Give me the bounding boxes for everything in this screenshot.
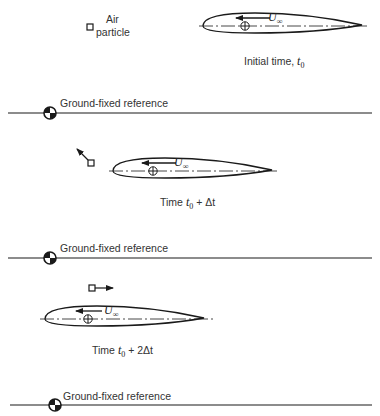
particle-label-line1: Air [106,13,119,25]
svg-text:U∞: U∞ [174,155,189,171]
caption-dt: Time t0 + Δt [160,195,215,211]
airfoil-3: U∞ [40,303,216,326]
airfoil-2: U∞ [109,155,278,178]
airfoil-motion-diagram: Air particle U∞ Initial time, t0 Ground-… [0,0,380,416]
center-crosshair-icon [241,22,249,30]
particle-velocity-arrow [77,149,88,160]
reference-label-3: Ground-fixed reference [63,390,171,402]
airfoil-1: U∞ [199,10,368,33]
panel-initial: Air particle U∞ Initial time, t0 Ground-… [8,10,372,119]
air-particle-square-icon [89,285,95,291]
reference-marker-icon [49,399,61,411]
air-particle-square-icon [87,24,93,30]
caption-2dt: Time t0 + 2Δt [92,343,153,359]
svg-text:U∞: U∞ [104,303,119,319]
panel-t0-plus-dt: U∞ Time t0 + Δt Ground-fixed reference [8,149,372,264]
particle-label-line2: particle [96,26,130,38]
caption-initial: Initial time, t0 [244,54,304,70]
air-particle-square-icon [88,160,94,166]
svg-text:U∞: U∞ [268,10,283,26]
reference-marker-icon [44,252,56,264]
center-crosshair-icon [84,315,92,323]
reference-marker-icon [44,107,56,119]
center-crosshair-icon [149,167,157,175]
reference-label-2: Ground-fixed reference [60,242,168,254]
reference-label-1: Ground-fixed reference [60,97,168,109]
panel-t0-plus-2dt: U∞ Time t0 + 2Δt Ground-fixed reference [10,285,372,411]
